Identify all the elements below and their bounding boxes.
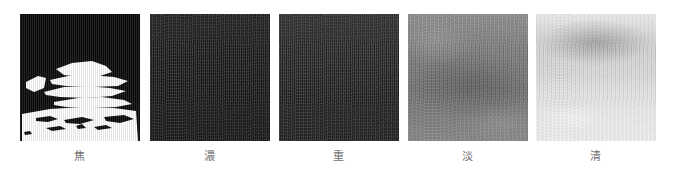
- swatch-caption-nong: 濃: [150, 150, 270, 164]
- swatch-image-zhong: [279, 14, 399, 141]
- swatch-image-nong: [150, 14, 270, 141]
- ink-field-qing: [536, 14, 656, 141]
- swatch-caption-qing: 清: [536, 150, 656, 164]
- ink-swatch-qing: [536, 14, 656, 141]
- swatch-caption-zhong: 重: [279, 150, 399, 164]
- swatch-image-jiao: [20, 14, 140, 141]
- ink-field-jiao: [20, 14, 140, 141]
- ink-swatch-nong: [150, 14, 270, 141]
- ink-swatch-dan: [408, 14, 528, 141]
- ink-field-dan: [408, 14, 528, 141]
- swatch-caption-jiao: 焦: [20, 150, 140, 164]
- ink-field-nong: [150, 14, 270, 141]
- swatch-image-qing: [536, 14, 656, 141]
- swatch-image-dan: [408, 14, 528, 141]
- five-ink-tones-figure: 焦 濃 重 淡 清: [0, 0, 680, 184]
- ink-swatch-zhong: [279, 14, 399, 141]
- ink-swatch-jiao: [20, 14, 140, 141]
- swatch-caption-dan: 淡: [408, 150, 528, 164]
- ink-field-zhong: [279, 14, 399, 141]
